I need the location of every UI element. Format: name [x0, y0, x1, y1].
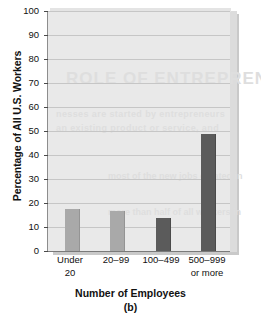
y-tick-20 [44, 203, 48, 204]
y-tick-0 [44, 251, 48, 252]
x-tick-label-line: 20 [41, 267, 99, 280]
y-tick-80 [44, 59, 48, 60]
gridline-100 [48, 11, 230, 12]
x-axis-title: Number of Employees [0, 287, 261, 299]
y-tick-60 [44, 107, 48, 108]
y-tick-label-90: 90 [9, 30, 39, 39]
y-tick-label-20: 20 [9, 198, 39, 207]
x-tick-label-3: 500–999or more [178, 254, 236, 279]
y-tick-label-100: 100 [9, 6, 39, 15]
y-tick-label-0: 0 [9, 246, 39, 255]
bar-3 [201, 134, 216, 251]
y-tick-label-10: 10 [9, 222, 39, 231]
y-tick-label-30: 30 [9, 174, 39, 183]
y-tick-40 [44, 155, 48, 156]
bar-2 [156, 218, 171, 251]
y-tick-50 [44, 131, 48, 132]
figure-caption: (b) [0, 301, 261, 313]
bar-1 [110, 211, 125, 251]
x-axis-tick-labels: Under2020–99100–499500–999or more [47, 254, 237, 288]
y-tick-10 [44, 227, 48, 228]
y-tick-label-70: 70 [9, 78, 39, 87]
y-tick-label-40: 40 [9, 150, 39, 159]
bar-chart-figure: Percentage of All U.S. Workers ROLE OF E… [0, 0, 261, 316]
y-tick-label-50: 50 [9, 126, 39, 135]
gridline-50 [48, 131, 230, 132]
y-tick-label-80: 80 [9, 54, 39, 63]
gridline-60 [48, 107, 230, 108]
plot-area: ROLE OF ENTREPRENEURS nesses are started… [47, 8, 237, 251]
gridline-70 [48, 83, 230, 84]
ghost-text-line5: more than half of all workers in [108, 207, 241, 217]
y-tick-90 [44, 35, 48, 36]
x-tick-label-line: 500–999 [178, 254, 236, 267]
gridline-0 [48, 251, 230, 252]
y-tick-70 [44, 83, 48, 84]
plot-panel: ROLE OF ENTREPRENEURS nesses are started… [47, 11, 230, 251]
gridline-80 [48, 59, 230, 60]
ghost-text-line2: nesses are started by entrepreneurs [56, 109, 225, 119]
y-tick-30 [44, 179, 48, 180]
y-tick-100 [44, 11, 48, 12]
bar-0 [65, 209, 80, 251]
x-tick-label-line: or more [178, 267, 236, 280]
gridline-90 [48, 35, 230, 36]
y-tick-label-60: 60 [9, 102, 39, 111]
